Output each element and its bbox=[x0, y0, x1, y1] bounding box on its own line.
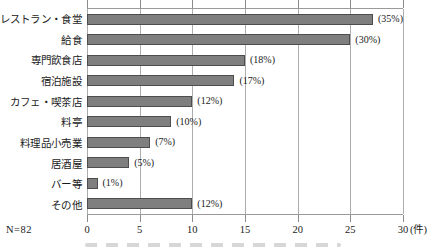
value-label: (12%) bbox=[197, 199, 222, 209]
value-label: (12%) bbox=[197, 96, 222, 106]
bar bbox=[87, 14, 373, 25]
category-label: 居酒屋 bbox=[0, 153, 82, 174]
category-label: バー等 bbox=[0, 174, 82, 195]
axis-tick bbox=[140, 215, 141, 222]
axis-tick bbox=[298, 0, 299, 8]
category-label: 専門飲食店 bbox=[0, 49, 82, 70]
category-label: 給食 bbox=[0, 29, 82, 50]
bar-row: (17%) bbox=[87, 71, 403, 92]
bottom-axis-ticks bbox=[87, 215, 403, 222]
axis-tick bbox=[87, 0, 88, 8]
bar-row: (1%) bbox=[87, 173, 403, 194]
axis-unit-label: (件) bbox=[410, 224, 427, 237]
axis-tick bbox=[298, 215, 299, 222]
bar-row: (7%) bbox=[87, 132, 403, 153]
bar-row: (18%) bbox=[87, 50, 403, 71]
horizontal-bar-chart: レストラン・食堂給食専門飲食店宿泊施設カフェ・喫茶店料亭料理品小売業居酒屋バー等… bbox=[0, 0, 439, 248]
category-label: 料亭 bbox=[0, 112, 82, 133]
value-label: (35%) bbox=[378, 14, 403, 24]
bar-row: (35%) bbox=[87, 9, 403, 30]
sample-size-label: N=82 bbox=[6, 224, 32, 235]
bar-row: (30%) bbox=[87, 30, 403, 51]
bar bbox=[87, 157, 129, 168]
bars-layer: (35%)(30%)(18%)(17%)(12%)(10%)(7%)(5%)(1… bbox=[87, 9, 403, 214]
value-label: (30%) bbox=[355, 35, 380, 45]
axis-tick bbox=[403, 0, 404, 8]
x-axis-tick-label: 10 bbox=[187, 224, 198, 237]
value-label: (10%) bbox=[176, 117, 201, 127]
cropped-caption-remnant bbox=[85, 243, 341, 247]
axis-tick bbox=[245, 215, 246, 222]
x-axis-tick-label: 30 bbox=[398, 224, 409, 237]
category-label: 料理品小売業 bbox=[0, 132, 82, 153]
x-axis-tick-label: 25 bbox=[345, 224, 356, 237]
value-label: (17%) bbox=[239, 76, 264, 86]
axis-tick bbox=[245, 0, 246, 8]
value-label: (1%) bbox=[103, 178, 123, 188]
value-label: (7%) bbox=[155, 137, 175, 147]
bar bbox=[87, 116, 171, 127]
value-label: (5%) bbox=[134, 158, 154, 168]
bar bbox=[87, 137, 150, 148]
x-axis-tick-label: 20 bbox=[292, 224, 303, 237]
value-label: (18%) bbox=[250, 55, 275, 65]
axis-tick bbox=[350, 0, 351, 8]
bar-row: (12%) bbox=[87, 194, 403, 215]
x-axis-labels: (件) 051015202530 bbox=[87, 224, 403, 237]
bar bbox=[87, 178, 98, 189]
category-label: レストラン・食堂 bbox=[0, 8, 82, 29]
category-axis-labels: レストラン・食堂給食専門飲食店宿泊施設カフェ・喫茶店料亭料理品小売業居酒屋バー等… bbox=[0, 8, 82, 215]
plot-area: (35%)(30%)(18%)(17%)(12%)(10%)(7%)(5%)(1… bbox=[87, 8, 403, 215]
x-axis-tick-label: 15 bbox=[240, 224, 251, 237]
bar bbox=[87, 34, 350, 45]
bar bbox=[87, 96, 192, 107]
axis-tick bbox=[350, 215, 351, 222]
x-axis-tick-label: 5 bbox=[137, 224, 142, 237]
axis-tick bbox=[403, 215, 404, 222]
category-label: 宿泊施設 bbox=[0, 70, 82, 91]
bar-row: (12%) bbox=[87, 91, 403, 112]
axis-tick bbox=[192, 0, 193, 8]
top-axis-ticks bbox=[87, 0, 403, 8]
axis-tick bbox=[192, 215, 193, 222]
bar-row: (5%) bbox=[87, 153, 403, 174]
gridline bbox=[403, 9, 404, 214]
bar bbox=[87, 198, 192, 209]
bar-row: (10%) bbox=[87, 112, 403, 133]
category-label: その他 bbox=[0, 194, 82, 215]
category-label: カフェ・喫茶店 bbox=[0, 91, 82, 112]
bar bbox=[87, 55, 245, 66]
bar bbox=[87, 75, 234, 86]
axis-tick bbox=[87, 215, 88, 222]
x-axis-tick-label: 0 bbox=[84, 224, 89, 237]
axis-tick bbox=[140, 0, 141, 8]
